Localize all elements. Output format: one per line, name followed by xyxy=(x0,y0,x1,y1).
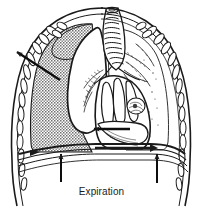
thorax-figure-svg xyxy=(0,0,203,209)
thorax-illustration: Expiration xyxy=(0,0,203,209)
figure-caption: Expiration xyxy=(0,186,203,198)
